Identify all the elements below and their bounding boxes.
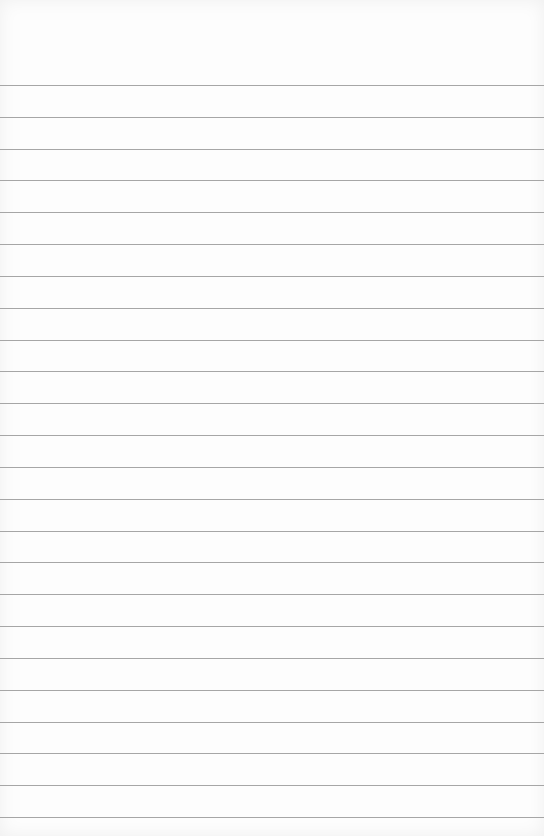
ruled-line <box>0 753 544 754</box>
ruled-line <box>0 722 544 723</box>
ruled-line <box>0 626 544 627</box>
ruled-line <box>0 276 544 277</box>
ruled-line <box>0 690 544 691</box>
ruled-line <box>0 785 544 786</box>
ruled-line <box>0 658 544 659</box>
ruled-line <box>0 817 544 818</box>
ruled-line <box>0 244 544 245</box>
ruled-line <box>0 467 544 468</box>
ruled-line <box>0 499 544 500</box>
ruled-line <box>0 85 544 86</box>
ruled-line <box>0 308 544 309</box>
lined-paper <box>0 0 544 836</box>
ruled-line <box>0 180 544 181</box>
ruled-line <box>0 531 544 532</box>
ruled-line <box>0 117 544 118</box>
ruled-line <box>0 403 544 404</box>
ruled-line <box>0 562 544 563</box>
ruled-line <box>0 594 544 595</box>
ruled-line <box>0 435 544 436</box>
ruled-line <box>0 340 544 341</box>
ruled-line <box>0 371 544 372</box>
ruled-line <box>0 149 544 150</box>
ruled-line <box>0 212 544 213</box>
